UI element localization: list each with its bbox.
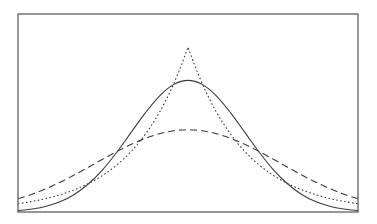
dashed-curve	[18, 130, 358, 199]
plot-area	[18, 47, 358, 211]
density-chart	[0, 0, 377, 224]
plot-frame	[18, 14, 358, 212]
solid-curve	[18, 80, 358, 210]
dotted-curve	[18, 47, 358, 204]
